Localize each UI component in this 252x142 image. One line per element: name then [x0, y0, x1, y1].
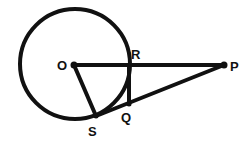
- point-o: [71, 62, 78, 69]
- label-r: R: [131, 47, 141, 62]
- geometry-diagram: O R P Q S: [0, 0, 252, 142]
- segment-os: [74, 65, 96, 116]
- segment-sp: [96, 65, 224, 116]
- label-o: O: [57, 58, 67, 73]
- label-q: Q: [121, 110, 131, 125]
- point-s: [94, 114, 99, 119]
- label-s: S: [88, 124, 97, 139]
- point-p: [221, 62, 228, 69]
- label-p: P: [230, 59, 239, 74]
- point-q: [127, 102, 132, 107]
